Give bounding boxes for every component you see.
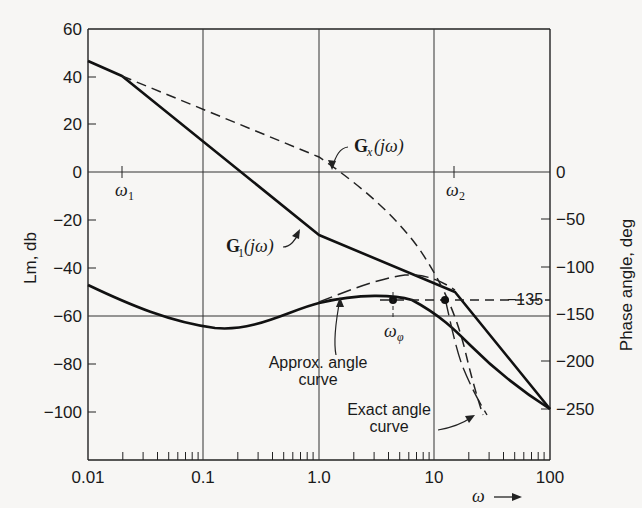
x-minor-ticks — [123, 452, 544, 460]
svg-text:−60: −60 — [53, 307, 82, 326]
y-axis-left-label: Lm, db — [21, 232, 40, 284]
omega2-label: ω 2 — [446, 180, 465, 203]
x-tick-labels: 0.01 0.1 1.0 10 100 — [71, 468, 564, 487]
svg-text:20: 20 — [63, 115, 82, 134]
svg-text:(jω): (jω) — [374, 136, 404, 157]
svg-text:1: 1 — [128, 189, 134, 203]
svg-text:60: 60 — [63, 20, 82, 39]
svg-text:2: 2 — [459, 189, 465, 203]
x-axis-label: ω — [472, 486, 522, 506]
svg-text:−50: −50 — [556, 210, 585, 229]
svg-text:ω: ω — [472, 486, 485, 506]
left-y-ticks — [88, 77, 96, 412]
svg-text:−200: −200 — [556, 352, 594, 371]
svg-text:curve: curve — [369, 418, 408, 435]
grid — [88, 29, 550, 460]
approx-angle-label: Approx. angle curve — [269, 354, 368, 388]
g1-label: G 1 (jω) — [226, 236, 274, 260]
svg-text:curve: curve — [298, 371, 337, 388]
omega1-label: ω 1 — [115, 180, 134, 203]
left-y-tick-labels: 60 40 20 0 −20 −40 −60 −80 −100 — [44, 20, 82, 422]
crossover-marker — [441, 296, 449, 304]
minus-135-label: −135 — [507, 291, 543, 308]
svg-text:−150: −150 — [556, 305, 594, 324]
svg-text:ω: ω — [446, 180, 459, 200]
svg-text:0: 0 — [556, 163, 565, 182]
svg-text:−250: −250 — [556, 400, 594, 419]
svg-text:1.0: 1.0 — [307, 468, 331, 487]
bode-plot: 60 40 20 0 −20 −40 −60 −80 −100 0 −50 −1… — [0, 0, 642, 508]
svg-text:ω: ω — [115, 180, 128, 200]
gx-label: G x (jω) — [354, 136, 404, 159]
right-y-ticks — [541, 219, 550, 409]
svg-text:x: x — [366, 145, 373, 159]
svg-text:−40: −40 — [53, 259, 82, 278]
omega-phi-label: ω φ — [384, 321, 404, 344]
svg-text:0.1: 0.1 — [191, 468, 215, 487]
svg-text:(jω): (jω) — [244, 236, 274, 257]
exact-angle-label: Exact angle curve — [347, 401, 431, 435]
right-y-tick-labels: 0 −50 −100 −150 −200 −250 — [556, 163, 594, 419]
svg-text:0: 0 — [73, 163, 82, 182]
svg-text:−100: −100 — [44, 403, 82, 422]
svg-text:ω: ω — [384, 321, 397, 341]
svg-text:Approx. angle: Approx. angle — [269, 354, 368, 371]
y-axis-right-label: Phase angle, deg — [617, 219, 636, 351]
svg-text:−80: −80 — [53, 355, 82, 374]
svg-text:Exact angle: Exact angle — [347, 401, 431, 418]
svg-text:10: 10 — [425, 468, 444, 487]
svg-text:100: 100 — [536, 468, 564, 487]
svg-text:G: G — [354, 136, 368, 156]
svg-text:0.01: 0.01 — [71, 468, 104, 487]
svg-text:−20: −20 — [53, 211, 82, 230]
svg-text:−100: −100 — [556, 258, 594, 277]
svg-text:φ: φ — [397, 330, 404, 344]
svg-text:40: 40 — [63, 68, 82, 87]
